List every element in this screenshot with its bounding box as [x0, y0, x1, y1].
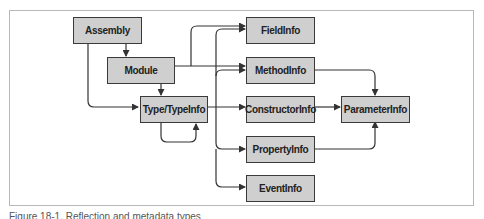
- node-fieldinfo: FieldInfo: [246, 17, 315, 44]
- figure-caption: Figure 18-1. Reflection and metadata typ…: [9, 211, 201, 219]
- node-module: Module: [107, 57, 175, 84]
- node-label: Assembly: [85, 25, 130, 36]
- node-eventinfo: EventInfo: [246, 175, 315, 202]
- node-label: EventInfo: [259, 183, 302, 194]
- edge-type-fieldinfo: [216, 29, 245, 107]
- node-assembly: Assembly: [73, 17, 142, 44]
- edge-type-eventinfo: [216, 149, 245, 187]
- node-label: Type/TypeInfo: [143, 104, 205, 115]
- node-type-typeinfo: Type/TypeInfo: [140, 96, 208, 123]
- node-label: PropertyInfo: [253, 144, 309, 155]
- edge-type-methodinfo: [216, 70, 245, 76]
- edge-module-fieldinfo: [191, 26, 245, 66]
- node-label: MethodInfo: [255, 65, 306, 76]
- edge-type-self: [161, 123, 196, 142]
- node-parameterinfo: ParameterInfo: [341, 96, 410, 123]
- edge-type-propertyinfo: [216, 107, 245, 149]
- node-propertyinfo: PropertyInfo: [246, 136, 315, 163]
- node-label: ParameterInfo: [344, 104, 407, 115]
- edge-methodinfo-parameterinfo: [315, 70, 375, 95]
- node-methodinfo: MethodInfo: [246, 57, 315, 84]
- edge-propertyinfo-parameterinfo: [315, 122, 375, 149]
- node-label: Module: [124, 65, 157, 76]
- node-label: ConstructorInfo: [245, 104, 316, 115]
- node-constructorinfo: ConstructorInfo: [246, 96, 315, 123]
- node-label: FieldInfo: [261, 25, 300, 36]
